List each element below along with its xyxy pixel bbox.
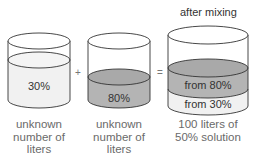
caption-line: 50% solution [166, 131, 250, 144]
caption-line: number of [84, 131, 154, 144]
caption-line: number of [4, 131, 74, 144]
plus-operator: + [75, 67, 81, 78]
container-1-caption: unknown number of liters [4, 118, 74, 156]
caption-line: unknown [4, 118, 74, 131]
container-1-label: 30% [28, 80, 50, 92]
container-80-percent: 80% [88, 33, 150, 108]
container-2-label: 80% [108, 92, 130, 104]
caption-line: unknown [84, 118, 154, 131]
equals-operator: = [157, 67, 163, 78]
caption-line: 100 liters of [166, 118, 250, 131]
container-mixed: from 80% from 30% [168, 26, 248, 115]
caption-line: liters [84, 143, 154, 156]
caption-line: liters [4, 143, 74, 156]
container-30-percent: 30% [8, 33, 70, 108]
container-3-caption: 100 liters of 50% solution [166, 118, 250, 143]
container-2-caption: unknown number of liters [84, 118, 154, 156]
layer-from-80-label: from 80% [184, 79, 231, 91]
layer-from-30-label: from 30% [184, 98, 231, 110]
